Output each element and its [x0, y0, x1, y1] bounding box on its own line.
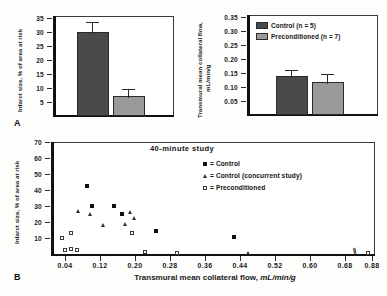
- ytick-mark: [241, 101, 246, 102]
- panel-b-xlabel-units: mL/min/g: [260, 273, 296, 282]
- triangle-icon: [203, 174, 207, 178]
- data-point: [90, 204, 94, 208]
- ytick-label: 0.35: [208, 14, 238, 21]
- ytick-label: 30: [22, 29, 44, 36]
- ytick-mark: [47, 88, 52, 89]
- data-point: [246, 251, 250, 255]
- ytick-label: 5: [22, 99, 44, 106]
- ytick-mark: [241, 87, 246, 88]
- data-point: [85, 184, 89, 188]
- panel-a-right-chart: Transmural mean collateral flow, mL/min/…: [190, 0, 387, 130]
- ytick-mark: [45, 190, 50, 191]
- xtick-mark: [310, 256, 311, 261]
- data-point: [232, 235, 236, 239]
- xtick-mark: [205, 256, 206, 261]
- bar-preconditioned: [113, 96, 145, 116]
- xtick-label: 0.28: [150, 262, 190, 269]
- data-point: [112, 204, 116, 208]
- ytick-mark: [45, 222, 50, 223]
- ytick-label: 20: [22, 219, 42, 226]
- xtick-mark: [100, 256, 101, 261]
- xtick-mark: [170, 256, 171, 261]
- panel-b-plot-area: [52, 142, 375, 255]
- ytick-mark: [45, 158, 50, 159]
- data-point: [63, 248, 67, 252]
- panel-a-left-yaxis: [53, 16, 56, 117]
- ytick-label: 0.30: [208, 28, 238, 35]
- bar-preconditioned-flow: [312, 82, 344, 115]
- ytick-label: 10: [22, 85, 44, 92]
- ytick-mark: [45, 142, 50, 143]
- error-bar-stem: [92, 22, 93, 34]
- open-square-icon: [203, 186, 207, 190]
- xtick-label: 0.04: [45, 262, 85, 269]
- data-point: [130, 231, 134, 235]
- ytick-label: 35: [22, 15, 44, 22]
- ytick-label: 70: [22, 139, 42, 146]
- ytick-mark: [45, 206, 50, 207]
- filled-square-icon: [203, 162, 207, 166]
- panel-letter-b: B: [14, 272, 21, 282]
- ytick-mark: [45, 174, 50, 175]
- xtick-label: 0.20: [115, 262, 155, 269]
- ytick-mark: [47, 102, 52, 103]
- ytick-label: 20: [22, 57, 44, 64]
- ytick-mark: [47, 74, 52, 75]
- panel-a-left-chart: Infarct size, % of area at risk 35 30 25…: [0, 0, 190, 130]
- data-point: [69, 231, 73, 235]
- ytick-label: 0.10: [208, 84, 238, 91]
- legend-item-preconditioned: = Preconditioned: [203, 184, 265, 191]
- data-point: [143, 250, 147, 254]
- legend-label-preconditioned: Preconditioned (n = 7): [271, 33, 341, 40]
- data-point: [366, 251, 370, 255]
- ytick-mark: [45, 238, 50, 239]
- legend-item-control-concurrent: = Control (concurrent study): [203, 172, 302, 179]
- data-point: [123, 222, 127, 226]
- ytick-label: 15: [22, 71, 44, 78]
- ytick-label: 10: [22, 235, 42, 242]
- error-bar-cap: [285, 70, 298, 71]
- data-point: [76, 209, 80, 213]
- data-point: [75, 248, 79, 252]
- ytick-mark: [47, 32, 52, 33]
- panel-b-chart: Infarct size, % of area at risk 70 60 50…: [0, 136, 387, 296]
- ytick-mark: [241, 73, 246, 74]
- ytick-label: 0.25: [208, 42, 238, 49]
- xtick-mark: [345, 256, 346, 261]
- data-point: [69, 247, 73, 251]
- xtick-label: 0.12: [80, 262, 120, 269]
- ytick-mark: [241, 59, 246, 60]
- xtick-mark: [372, 256, 373, 261]
- ytick-mark: [241, 45, 246, 46]
- ytick-label: 25: [22, 43, 44, 50]
- error-bar-stem: [128, 89, 129, 98]
- bar-control: [77, 32, 109, 116]
- error-bar-cap: [122, 89, 135, 90]
- legend-label-control-concurrent: = Control (concurrent study): [210, 172, 302, 179]
- error-bar-cap: [321, 74, 334, 75]
- legend-item-control: Control (n = 5): [256, 22, 316, 29]
- ytick-label: 0.15: [208, 70, 238, 77]
- panel-letter-a: A: [14, 118, 21, 128]
- ytick-label: 40: [22, 187, 42, 194]
- data-point: [154, 229, 158, 233]
- xtick-label: 0.52: [255, 262, 295, 269]
- figure-container: Infarct size, % of area at risk 35 30 25…: [0, 0, 387, 296]
- data-point: [175, 251, 179, 255]
- xtick-mark: [240, 256, 241, 261]
- ytick-label: 60: [22, 155, 42, 162]
- panel-a-right-ylabel-line1: Transmural mean collateral flow,: [196, 22, 203, 118]
- data-point: [120, 212, 124, 216]
- data-point: [128, 210, 132, 214]
- panel-b-xlabel-plain: Transmural mean collateral flow,: [134, 273, 260, 282]
- xtick-label: 0.60: [290, 262, 330, 269]
- ytick-mark: [241, 31, 246, 32]
- ytick-label: 0.20: [208, 56, 238, 63]
- legend-label-control: = Control: [210, 160, 240, 167]
- error-bar-stem: [291, 70, 292, 78]
- ytick-mark: [47, 60, 52, 61]
- xtick-mark: [135, 256, 136, 261]
- data-point: [101, 223, 105, 227]
- ytick-mark: [47, 18, 52, 19]
- legend-item-preconditioned: Preconditioned (n = 7): [256, 33, 341, 40]
